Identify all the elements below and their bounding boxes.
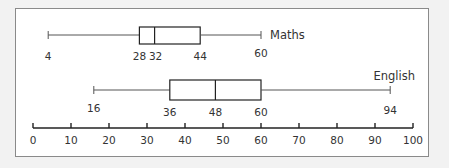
x-tick-label: 90 xyxy=(368,134,381,146)
maths-median-label: 32 xyxy=(149,50,162,62)
x-tick-label: 0 xyxy=(30,134,37,146)
english-q1-label: 36 xyxy=(163,106,177,118)
maths-min-label: 4 xyxy=(45,50,52,62)
x-tick-label: 40 xyxy=(178,134,191,146)
english-median-label: 48 xyxy=(209,106,222,118)
box-plot-chart: Maths 4 28 32 44 60 English 16 36 48 60 … xyxy=(0,0,449,168)
x-tick-label: 30 xyxy=(140,134,153,146)
english-min-label: 16 xyxy=(87,102,101,114)
english-q3-label: 60 xyxy=(254,106,267,118)
x-tick-label: 80 xyxy=(330,134,343,146)
x-tick-label: 100 xyxy=(403,134,423,146)
x-tick-label: 10 xyxy=(64,134,77,146)
maths-box xyxy=(139,27,200,44)
x-tick-label: 20 xyxy=(102,134,115,146)
x-tick-label: 50 xyxy=(216,134,229,146)
maths-max-label: 60 xyxy=(254,47,267,59)
english-series-label: English xyxy=(373,69,415,83)
x-tick-label: 60 xyxy=(254,134,267,146)
english-max-label: 94 xyxy=(384,104,398,116)
maths-q1-label: 28 xyxy=(133,50,146,62)
english-boxplot: English 16 36 48 60 94 xyxy=(87,69,415,118)
maths-boxplot: Maths 4 28 32 44 60 xyxy=(45,27,305,62)
x-axis: 0102030405060708090100 xyxy=(30,123,423,146)
x-axis-ticks: 0102030405060708090100 xyxy=(30,123,423,146)
x-tick-label: 70 xyxy=(292,134,305,146)
maths-series-label: Maths xyxy=(270,28,305,42)
maths-q3-label: 44 xyxy=(194,50,208,62)
